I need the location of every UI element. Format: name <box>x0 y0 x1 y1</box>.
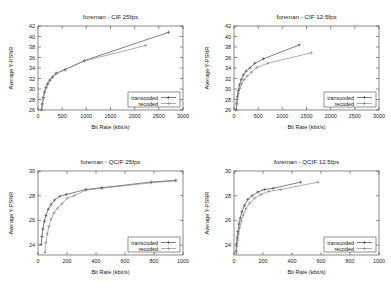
chart-title: foreman - CIF 25fps <box>83 13 138 20</box>
data-point-transcoded <box>261 57 264 60</box>
x-tick-label: 3000 <box>373 113 385 119</box>
x-tick-label: 800 <box>150 258 159 264</box>
data-point-transcoded <box>240 210 243 213</box>
x-tick-label: 600 <box>121 258 130 264</box>
data-point-recoded <box>47 225 50 228</box>
series-line-recoded <box>236 182 318 253</box>
data-point-recoded <box>100 187 103 190</box>
chart-legend: transcodedrecoded <box>128 237 180 252</box>
data-point-transcoded <box>297 43 300 46</box>
x-tick-label: 1500 <box>300 113 312 119</box>
y-axis-label: Average Y-PSNR <box>204 47 210 90</box>
y-tick-label: 30 <box>29 168 35 174</box>
data-point-recoded <box>235 97 238 100</box>
data-point-transcoded <box>40 243 43 246</box>
x-tick-label: 400 <box>287 258 296 264</box>
data-point-recoded <box>44 86 47 89</box>
y-tick-label: 42 <box>29 23 35 29</box>
data-point-recoded <box>241 213 244 216</box>
legend-label-recoded: recoded <box>139 101 158 107</box>
data-point-recoded <box>316 181 319 184</box>
data-point-recoded <box>43 251 46 254</box>
y-tick-label: 38 <box>29 44 35 50</box>
x-tick-label: 0 <box>232 113 235 119</box>
y-tick-label: 28 <box>225 97 231 103</box>
legend-label-recoded: recoded <box>334 246 353 252</box>
data-point-recoded <box>73 194 76 197</box>
x-tick-label: 2000 <box>324 113 336 119</box>
data-point-transcoded <box>65 193 68 196</box>
x-axis-label: Bit Rate (kbit/s) <box>287 269 325 275</box>
chart-panel-bottom-right: foreman - QCIF 12.5fps020040060080010002… <box>196 145 391 290</box>
data-point-recoded <box>41 103 44 106</box>
chart-panel-top-right: foreman - CIF 12.5fps0500100015002000250… <box>196 0 391 145</box>
y-tick-label: 34 <box>29 65 35 71</box>
chart-panel-top-left: foreman - CIF 25fps050010001500200025003… <box>0 0 195 145</box>
x-tick-label: 500 <box>253 113 262 119</box>
data-point-transcoded <box>44 214 47 217</box>
y-tick-label: 38 <box>225 44 231 50</box>
data-point-recoded <box>174 179 177 182</box>
y-tick-label: 42 <box>225 23 231 29</box>
y-tick-label: 26 <box>225 217 231 223</box>
x-tick-label: 1000 <box>276 113 288 119</box>
x-tick-label: 0 <box>37 113 40 119</box>
data-point-recoded <box>144 44 147 47</box>
chart-legend: transcodedrecoded <box>324 92 376 107</box>
data-point-transcoded <box>43 220 46 223</box>
series-line-transcoded <box>236 45 299 110</box>
x-tick-label: 2000 <box>129 113 141 119</box>
legend-label-recoded: recoded <box>334 101 353 107</box>
y-tick-label: 32 <box>225 76 231 82</box>
data-point-recoded <box>267 190 270 193</box>
x-tick-label: 1000 <box>80 113 92 119</box>
y-tick-label: 34 <box>225 65 231 71</box>
data-point-recoded <box>234 252 237 255</box>
chart-title: foreman - QCIF 25fps <box>81 158 141 165</box>
x-tick-label: 0 <box>37 258 40 264</box>
y-axis-label: Average Y-PSNR <box>204 192 210 235</box>
chart-title: foreman - CIF 12.5fps <box>276 13 336 20</box>
x-tick-label: 3000 <box>177 113 189 119</box>
x-tick-label: 200 <box>258 258 267 264</box>
x-axis-label: Bit Rate (kbit/s) <box>91 124 129 130</box>
data-point-recoded <box>266 62 269 65</box>
y-tick-label: 26 <box>29 107 35 113</box>
x-tick-label: 500 <box>58 113 67 119</box>
plot-grid: foreman - CIF 25fps050010001500200025003… <box>0 0 391 290</box>
chart-legend: transcodedrecoded <box>128 92 180 107</box>
data-point-recoded <box>43 91 46 94</box>
series-line-recoded <box>42 45 146 109</box>
data-point-transcoded <box>167 31 170 34</box>
y-tick-label: 28 <box>225 193 231 199</box>
series-line-recoded <box>236 53 311 110</box>
y-tick-label: 36 <box>225 55 231 61</box>
data-point-transcoded <box>262 188 265 191</box>
data-point-recoded <box>309 51 312 54</box>
chart-panel-bottom-left: foreman - QCIF 25fps02004006008001000242… <box>0 145 195 290</box>
y-axis-label: Average Y-PSNR <box>8 192 14 235</box>
data-point-recoded <box>84 189 87 192</box>
y-tick-label: 40 <box>225 34 231 40</box>
data-point-recoded <box>40 108 43 111</box>
y-tick-label: 26 <box>225 107 231 113</box>
y-tick-label: 30 <box>225 86 231 92</box>
data-point-recoded <box>278 188 281 191</box>
data-point-transcoded <box>47 208 50 211</box>
x-tick-label: 1000 <box>177 258 189 264</box>
y-tick-label: 30 <box>29 86 35 92</box>
data-point-transcoded <box>238 216 241 219</box>
data-point-recoded <box>46 232 49 235</box>
y-axis-label: Average Y-PSNR <box>8 47 14 90</box>
data-point-transcoded <box>40 235 43 238</box>
x-tick-label: 600 <box>316 258 325 264</box>
legend-label-recoded: recoded <box>139 246 158 252</box>
x-axis-label: Bit Rate (kbit/s) <box>91 269 129 275</box>
y-tick-label: 28 <box>29 97 35 103</box>
x-tick-label: 2500 <box>153 113 165 119</box>
series-line-transcoded <box>236 182 301 251</box>
x-axis-label: Bit Rate (kbit/s) <box>287 124 325 130</box>
data-point-recoded <box>150 181 153 184</box>
data-point-recoded <box>259 193 262 196</box>
x-tick-label: 2500 <box>348 113 360 119</box>
